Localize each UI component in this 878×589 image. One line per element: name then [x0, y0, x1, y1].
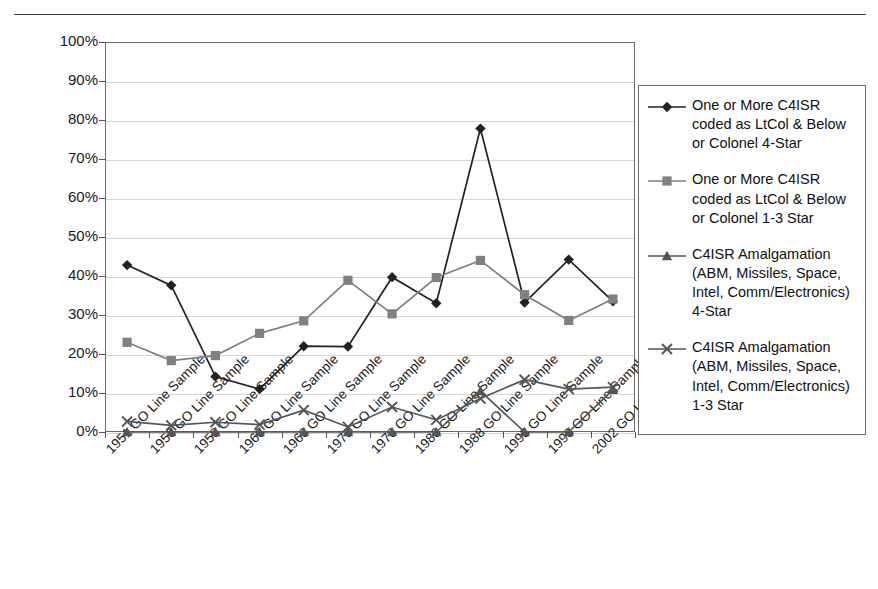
legend-entry[interactable]: One or More C4ISR coded as LtCol & Below… — [647, 96, 857, 153]
square-marker — [343, 276, 352, 285]
series-3 — [122, 385, 618, 436]
diamond-marker — [387, 272, 397, 282]
y-axis-tick-label: 70% — [40, 149, 98, 166]
y-axis-tick-label: 60% — [40, 188, 98, 205]
diamond-icon — [647, 97, 687, 117]
diamond-marker — [166, 280, 176, 290]
series-1 — [122, 123, 618, 394]
y-axis-tick-label: 40% — [40, 266, 98, 283]
series-line — [127, 129, 613, 390]
x-axis-tick-mark — [635, 432, 636, 438]
legend-label: One or More C4ISR coded as LtCol & Below… — [692, 96, 846, 153]
diamond-marker — [475, 123, 485, 133]
cross-marker — [431, 415, 441, 425]
square-marker — [608, 294, 617, 303]
x-axis-tick-mark — [238, 432, 239, 438]
legend-entry[interactable]: One or More C4ISR coded as LtCol & Below… — [647, 170, 857, 227]
square-marker — [662, 177, 671, 186]
x-axis-tick-mark — [326, 432, 327, 438]
series-line — [127, 390, 613, 432]
x-axis-tick-mark — [503, 432, 504, 438]
legend-label: C4ISR Amalgamation (ABM, Missiles, Space… — [692, 245, 850, 322]
triangle-icon — [647, 246, 687, 266]
x-axis-tick-mark — [591, 432, 592, 438]
chart-legend: One or More C4ISR coded as LtCol & Below… — [638, 85, 866, 435]
diamond-marker — [662, 102, 672, 112]
square-marker — [476, 256, 485, 265]
x-axis-tick-mark — [458, 432, 459, 438]
diamond-marker — [431, 298, 441, 308]
x-axis-tick-mark — [414, 432, 415, 438]
square-marker — [387, 309, 396, 318]
y-axis-tick-label: 90% — [40, 71, 98, 88]
y-axis-tick-label: 30% — [40, 305, 98, 322]
square-marker — [520, 290, 529, 299]
series-4 — [122, 375, 618, 432]
legend-label: One or More C4ISR coded as LtCol & Below… — [692, 170, 846, 227]
legend-label: C4ISR Amalgamation (ABM, Missiles, Space… — [692, 338, 850, 415]
square-icon — [647, 171, 687, 191]
y-axis-tick-label: 50% — [40, 227, 98, 244]
series-layer — [105, 42, 635, 432]
diamond-marker — [122, 260, 132, 270]
y-axis-tick-label: 100% — [40, 32, 98, 49]
y-axis-tick-label: 80% — [40, 110, 98, 127]
cross-marker — [387, 402, 397, 412]
square-marker — [255, 329, 264, 338]
x-axis-tick-mark — [547, 432, 548, 438]
x-axis-tick-mark — [193, 432, 194, 438]
square-marker — [211, 351, 220, 360]
x-axis-tick-mark — [149, 432, 150, 438]
diamond-marker — [343, 341, 353, 351]
square-marker — [564, 316, 573, 325]
x-axis-tick-mark — [105, 432, 106, 438]
y-axis-tick-label: 10% — [40, 383, 98, 400]
square-marker — [432, 273, 441, 282]
square-marker — [167, 356, 176, 365]
cross-icon — [647, 339, 687, 359]
line-chart: 0%10%20%30%40%50%60%70%80%90%100% 1951 G… — [0, 0, 878, 589]
square-marker — [299, 316, 308, 325]
cross-marker — [299, 405, 309, 415]
x-axis-tick-mark — [282, 432, 283, 438]
x-axis-tick-mark — [370, 432, 371, 438]
square-marker — [122, 338, 131, 347]
series-line — [127, 380, 613, 427]
y-axis-tick-label: 0% — [40, 422, 98, 439]
diamond-marker — [210, 371, 220, 381]
legend-entry[interactable]: C4ISR Amalgamation (ABM, Missiles, Space… — [647, 245, 857, 322]
legend-entry[interactable]: C4ISR Amalgamation (ABM, Missiles, Space… — [647, 338, 857, 415]
y-axis-tick-label: 20% — [40, 344, 98, 361]
